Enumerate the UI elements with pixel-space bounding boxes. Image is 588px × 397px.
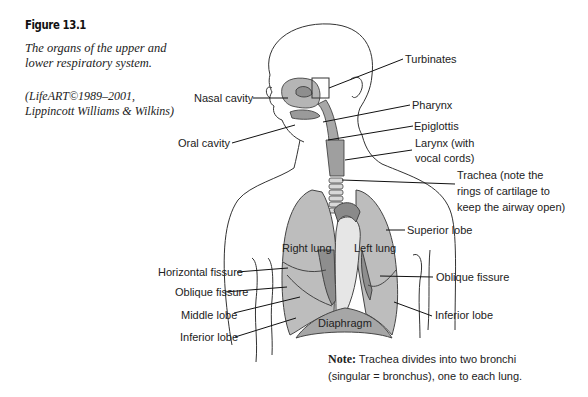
larynx-shape <box>326 140 344 176</box>
note-line-1: Note: Trachea divides into two bronchi <box>328 351 588 368</box>
label-left-lung: Left lung <box>354 241 396 256</box>
label-trachea: Trachea (note the rings of cartilage to … <box>457 167 565 215</box>
trachea-line-2: rings of cartilage to <box>457 183 565 199</box>
label-nasal-cavity: Nasal cavity <box>194 91 253 106</box>
label-diaphragm: Diaphragm <box>318 316 372 331</box>
label-right-lung: Right lung <box>282 241 332 256</box>
head-outline <box>269 24 373 135</box>
larynx-line-2: vocal cords) <box>415 151 474 166</box>
label-oblique-fissure-right: Oblique fissure <box>436 270 509 285</box>
label-middle-lobe: Middle lobe <box>181 308 237 323</box>
larynx-line-1: Larynx (with <box>415 136 474 151</box>
note-prefix: Note: <box>328 352 356 366</box>
label-oral-cavity: Oral cavity <box>178 136 230 151</box>
note-block: Note: Trachea divides into two bronchi (… <box>328 351 588 385</box>
label-superior-lobe: Superior lobe <box>407 223 472 238</box>
label-epiglottis: Epiglottis <box>414 119 459 134</box>
heart-shape <box>335 217 360 312</box>
label-inferior-lobe-right: Inferior lobe <box>435 308 493 323</box>
trachea-line-3: keep the airway open) <box>457 199 565 215</box>
label-oblique-fissure-left: Oblique fissure <box>175 285 248 300</box>
note-text-1: Trachea divides into two bronchi <box>359 353 516 365</box>
note-line-2: (singular = bronchus), one to each lung. <box>328 368 588 385</box>
label-larynx: Larynx (with vocal cords) <box>415 136 474 166</box>
label-turbinates: Turbinates <box>405 52 457 67</box>
trachea-line-1: Trachea (note the <box>457 167 565 183</box>
label-horizontal-fissure: Horizontal fissure <box>158 265 243 280</box>
label-inferior-lobe-left: Inferior lobe <box>180 330 238 345</box>
label-pharynx: Pharynx <box>412 98 452 113</box>
